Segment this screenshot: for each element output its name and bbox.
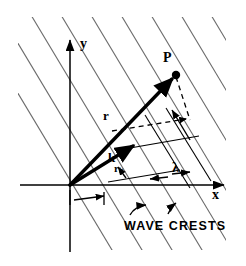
y-axis-label: y [80,36,87,51]
wave-crests-caption: WAVE CRESTS [124,219,226,233]
point-p-marker [172,71,180,79]
diagram-canvas: y x P r k λ rₖ WAVE CRESTS [0,0,246,266]
point-p-label: P [163,50,172,65]
x-axis-label: x [212,187,219,202]
vector-r-label: r [103,108,109,123]
projection-label: rₖ [114,162,124,174]
wavelength-label: λ [172,160,179,175]
wave-crest-diagram: y x P r k λ rₖ WAVE CRESTS [0,0,246,266]
